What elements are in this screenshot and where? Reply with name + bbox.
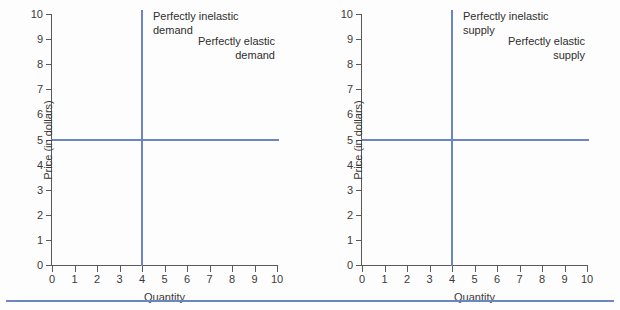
x-tick-2 — [407, 266, 408, 272]
y-tick-3 — [46, 190, 52, 191]
x-ticklabel-3: 3 — [116, 274, 122, 285]
y-ticklabel-10: 10 — [31, 9, 43, 20]
annotation-perfectly-elastic-demand: Perfectly elastic demand — [198, 35, 275, 62]
y-ticklabel-1: 1 — [347, 234, 353, 245]
x-tick-1 — [385, 266, 386, 272]
x-tick-1 — [75, 266, 76, 272]
y-ticklabel-7: 7 — [37, 84, 43, 95]
y-ticklabel-8: 8 — [37, 59, 43, 70]
y-tick-7 — [356, 89, 362, 90]
x-tick-2 — [97, 266, 98, 272]
y-ticklabel-3: 3 — [347, 184, 353, 195]
x-ticklabel-4: 4 — [139, 274, 145, 285]
y-axis-title: Price (in dollars) — [42, 100, 54, 179]
x-ticklabel-8: 8 — [539, 274, 545, 285]
perfectly-inelastic-demand-line — [141, 10, 143, 266]
x-tick-7 — [520, 266, 521, 272]
y-tick-7 — [46, 89, 52, 90]
x-ticklabel-3: 3 — [426, 274, 432, 285]
x-ticklabel-1: 1 — [71, 274, 77, 285]
y-ticklabel-9: 9 — [347, 34, 353, 45]
y-ticklabel-10: 10 — [341, 9, 353, 20]
x-tick-7 — [210, 266, 211, 272]
annotation-perfectly-elastic-supply: Perfectly elastic supply — [508, 35, 585, 62]
x-tick-0 — [362, 266, 363, 272]
x-ticklabel-9: 9 — [251, 274, 257, 285]
x-ticklabel-10: 10 — [581, 274, 593, 285]
y-tick-1 — [46, 240, 52, 241]
x-ticklabel-2: 2 — [94, 274, 100, 285]
y-tick-3 — [356, 190, 362, 191]
x-ticklabel-9: 9 — [561, 274, 567, 285]
perfectly-elastic-demand-line — [51, 139, 279, 141]
annotation-perfectly-inelastic-demand: Perfectly inelastic demand — [153, 10, 239, 37]
perfectly-inelastic-supply-line — [451, 10, 453, 266]
x-ticklabel-0: 0 — [359, 274, 365, 285]
chart-panel-demand: 10 9 8 7 6 5 4 3 2 1 0 0 1 — [0, 0, 310, 292]
x-tick-6 — [497, 266, 498, 272]
x-ticklabel-5: 5 — [161, 274, 167, 285]
plot-area-demand: 10 9 8 7 6 5 4 3 2 1 0 0 1 — [52, 14, 277, 265]
y-ticklabel-2: 2 — [347, 209, 353, 220]
y-tick-2 — [356, 215, 362, 216]
y-ticklabel-9: 9 — [37, 34, 43, 45]
y-ticklabel-7: 7 — [347, 84, 353, 95]
chart-panel-supply: 10 9 8 7 6 5 4 3 2 1 0 0 1 — [310, 0, 620, 292]
x-tick-3 — [120, 266, 121, 272]
x-ticklabel-1: 1 — [381, 274, 387, 285]
x-tick-5 — [475, 266, 476, 272]
x-ticklabel-2: 2 — [404, 274, 410, 285]
x-tick-9 — [255, 266, 256, 272]
x-tick-10 — [277, 266, 278, 272]
y-tick-10 — [356, 14, 362, 15]
x-tick-0 — [52, 266, 53, 272]
x-ticklabel-0: 0 — [49, 274, 55, 285]
x-tick-3 — [430, 266, 431, 272]
y-tick-10 — [46, 14, 52, 15]
x-tick-4 — [142, 266, 143, 272]
x-tick-4 — [452, 266, 453, 272]
x-ticklabel-8: 8 — [229, 274, 235, 285]
y-ticklabel-1: 1 — [37, 234, 43, 245]
y-tick-1 — [356, 240, 362, 241]
elasticity-figure: 10 9 8 7 6 5 4 3 2 1 0 0 1 — [0, 0, 620, 310]
bottom-divider-rule — [6, 300, 614, 302]
x-ticklabel-7: 7 — [206, 274, 212, 285]
x-tick-8 — [232, 266, 233, 272]
y-tick-2 — [46, 215, 52, 216]
x-ticklabel-4: 4 — [449, 274, 455, 285]
y-ticklabel-0: 0 — [347, 260, 353, 271]
x-tick-10 — [587, 266, 588, 272]
y-ticklabel-3: 3 — [37, 184, 43, 195]
x-ticklabel-6: 6 — [184, 274, 190, 285]
x-ticklabel-6: 6 — [494, 274, 500, 285]
x-ticklabel-7: 7 — [516, 274, 522, 285]
y-ticklabel-2: 2 — [37, 209, 43, 220]
y-tick-8 — [46, 64, 52, 65]
x-tick-8 — [542, 266, 543, 272]
y-tick-9 — [356, 39, 362, 40]
y-tick-8 — [356, 64, 362, 65]
x-tick-9 — [565, 266, 566, 272]
x-tick-6 — [187, 266, 188, 272]
y-ticklabel-0: 0 — [37, 260, 43, 271]
y-ticklabel-8: 8 — [347, 59, 353, 70]
y-axis-title: Price (in dollars) — [352, 100, 364, 179]
plot-area-supply: 10 9 8 7 6 5 4 3 2 1 0 0 1 — [362, 14, 587, 265]
x-ticklabel-5: 5 — [471, 274, 477, 285]
annotation-perfectly-inelastic-supply: Perfectly inelastic supply — [463, 10, 549, 37]
y-tick-9 — [46, 39, 52, 40]
x-ticklabel-10: 10 — [271, 274, 283, 285]
perfectly-elastic-supply-line — [361, 139, 589, 141]
x-tick-5 — [165, 266, 166, 272]
